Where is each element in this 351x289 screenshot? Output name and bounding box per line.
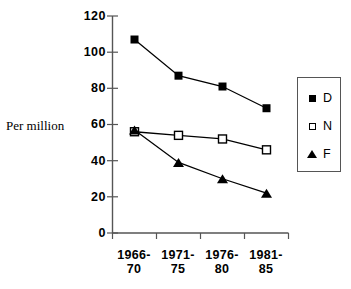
legend-label-f: F xyxy=(323,147,331,161)
data-point-n-3[interactable] xyxy=(263,146,271,154)
filled-triangle-icon xyxy=(304,150,320,158)
data-point-d-3[interactable] xyxy=(263,104,271,112)
legend-label-n: N xyxy=(323,119,332,133)
filled-square-icon xyxy=(304,95,320,102)
series-line-f xyxy=(135,130,267,193)
data-point-f-2[interactable] xyxy=(217,174,228,183)
data-point-d-0[interactable] xyxy=(131,36,139,44)
legend-entry-f[interactable]: F xyxy=(298,144,342,164)
data-point-d-2[interactable] xyxy=(219,83,227,91)
series-line-d xyxy=(135,40,267,109)
open-square-icon xyxy=(304,123,320,130)
data-point-d-1[interactable] xyxy=(175,72,183,80)
data-series-group xyxy=(129,36,272,198)
chart-container: Per million 120 100 80 60 40 20 0 1966- … xyxy=(0,0,351,289)
series-line-n xyxy=(135,132,267,150)
legend-entry-d[interactable]: D xyxy=(298,88,342,108)
data-point-n-1[interactable] xyxy=(175,131,183,139)
legend: D N F xyxy=(297,77,341,172)
data-point-n-2[interactable] xyxy=(219,135,227,143)
legend-label-d: D xyxy=(323,91,332,105)
x-axis-ticks xyxy=(113,233,289,239)
data-point-f-3[interactable] xyxy=(261,189,272,198)
legend-entry-n[interactable]: N xyxy=(298,116,342,136)
